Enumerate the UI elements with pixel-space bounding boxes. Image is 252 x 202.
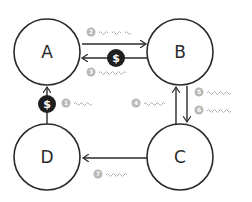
squiggle-text xyxy=(144,103,165,106)
node-d-label: D xyxy=(40,147,53,167)
flow-diagram: A B C D $ $ 1 2 3 xyxy=(0,0,252,202)
squiggle-text xyxy=(106,174,127,177)
dollar-coin-icon: $ xyxy=(38,95,56,113)
step-badge-3: 3 xyxy=(87,68,127,77)
svg-text:2: 2 xyxy=(89,28,93,35)
step-badge-1: 1 xyxy=(62,99,93,108)
squiggle-text xyxy=(207,110,231,113)
step-badge-4: 4 xyxy=(132,99,166,108)
svg-text:3: 3 xyxy=(89,68,93,75)
step-badge-2: 2 xyxy=(87,28,132,37)
node-b: B xyxy=(147,19,213,85)
squiggle-text xyxy=(207,92,231,95)
node-a: A xyxy=(14,19,80,85)
node-a-label: A xyxy=(41,42,53,62)
squiggle-text xyxy=(99,72,126,75)
svg-text:5: 5 xyxy=(197,88,201,95)
svg-text:1: 1 xyxy=(64,99,68,106)
node-d: D xyxy=(14,124,80,190)
squiggle-text xyxy=(99,32,131,35)
step-badge-7: 7 xyxy=(94,170,128,179)
node-c: C xyxy=(147,124,213,190)
svg-text:7: 7 xyxy=(96,170,100,177)
node-b-label: B xyxy=(174,42,186,62)
svg-text:$: $ xyxy=(43,98,51,111)
dollar-coin-icon: $ xyxy=(107,49,125,67)
step-badge-6: 6 xyxy=(195,106,232,115)
node-c-label: C xyxy=(174,147,186,167)
svg-text:$: $ xyxy=(112,52,120,65)
step-badge-5: 5 xyxy=(195,88,232,97)
svg-text:6: 6 xyxy=(197,106,201,113)
svg-text:4: 4 xyxy=(134,99,138,106)
squiggle-text xyxy=(74,103,92,106)
